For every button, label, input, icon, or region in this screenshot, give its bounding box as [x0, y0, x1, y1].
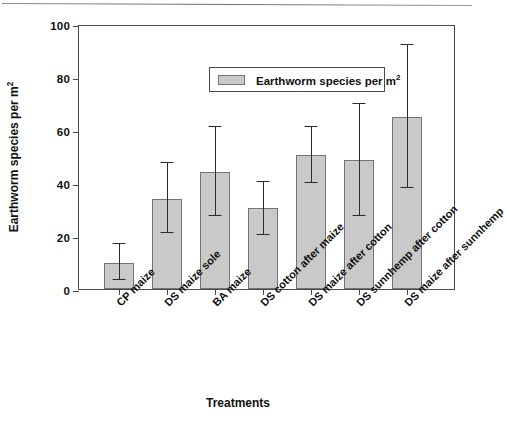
y-tick-0: [73, 291, 79, 292]
legend-label-superscript: 2: [396, 73, 400, 82]
error-cap-lower-5: [353, 215, 366, 216]
y-tick-label-0: 0: [63, 285, 70, 297]
y-tick-label-100: 100: [50, 20, 70, 32]
error-cap-lower-4: [305, 182, 318, 183]
y-tick-60: [73, 132, 79, 133]
chart-legend: Earthworm species per m2: [209, 67, 385, 92]
y-axis-title-superscript: 2: [6, 82, 15, 87]
y-tick-label-20: 20: [57, 232, 70, 244]
error-bar-6: [407, 45, 408, 188]
y-tick-100: [73, 26, 79, 27]
error-cap-upper-6: [401, 44, 414, 45]
error-bar-4: [311, 127, 312, 183]
y-tick-label-60: 60: [57, 126, 70, 138]
y-axis-title: Earthworm species per m2: [6, 82, 21, 233]
error-cap-upper-2: [209, 126, 222, 127]
plot-area: 100 80 60 40 20 0 Earthworm species per …: [78, 25, 455, 290]
legend-swatch-earthworm: [218, 75, 245, 85]
error-bar-5: [359, 104, 360, 217]
y-tick-label-80: 80: [57, 73, 70, 85]
error-cap-lower-1: [161, 232, 174, 233]
error-bar-2: [215, 127, 216, 216]
error-cap-lower-3: [257, 234, 270, 235]
error-cap-upper-4: [305, 126, 318, 127]
error-cap-lower-6: [401, 187, 414, 188]
y-tick-40: [73, 185, 79, 186]
legend-label-earthworm: Earthworm species per m2: [256, 73, 400, 87]
error-cap-lower-2: [209, 215, 222, 216]
y-tick-20: [73, 238, 79, 239]
error-bar-0: [119, 244, 120, 280]
error-cap-upper-1: [161, 162, 174, 163]
error-bar-3: [263, 182, 264, 235]
error-cap-upper-0: [113, 243, 126, 244]
legend-label-text: Earthworm species per m: [256, 74, 396, 86]
error-cap-upper-3: [257, 181, 270, 182]
error-cap-lower-0: [113, 279, 126, 280]
error-bar-1: [167, 163, 168, 233]
y-tick-80: [73, 79, 79, 80]
x-axis-title: Treatments: [0, 396, 476, 410]
y-axis-title-text: Earthworm species per m: [7, 86, 21, 232]
y-tick-label-40: 40: [57, 179, 70, 191]
error-cap-upper-5: [353, 103, 366, 104]
